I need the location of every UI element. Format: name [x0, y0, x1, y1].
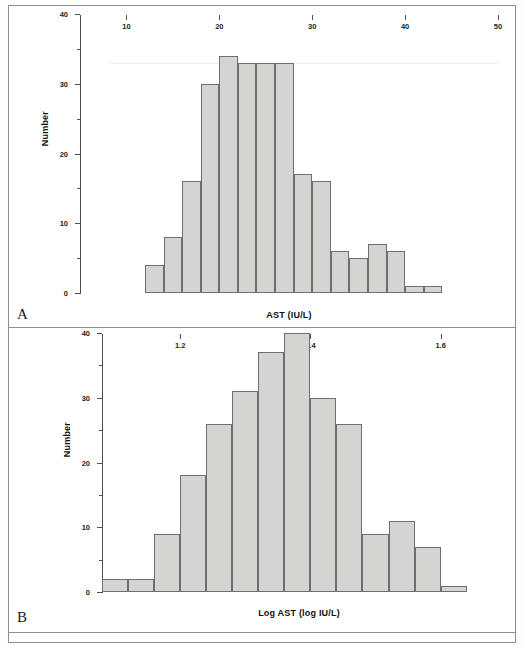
- histogram-bar: [102, 579, 128, 592]
- y-tick-20: 20: [97, 463, 102, 464]
- histogram-bar: [336, 424, 362, 592]
- y-tick-minor-25: [99, 430, 102, 431]
- y-tick-label-40: 40: [82, 329, 90, 338]
- panel-a: A AST (IU/L) Number 0102030401020304050: [9, 6, 515, 327]
- plot-area-a: AST (IU/L) Number 0102030401020304050: [80, 15, 498, 294]
- histogram-bar: [256, 63, 275, 293]
- x-tick-50: 50: [498, 15, 499, 20]
- histogram-bar: [182, 181, 201, 293]
- histogram-bar: [128, 579, 154, 592]
- histogram-bar: [206, 424, 232, 592]
- x-tick-30: 30: [312, 15, 313, 20]
- y-tick-10: 10: [97, 527, 102, 528]
- panel-divider-bottom: [9, 632, 515, 633]
- x-tick-label-50: 50: [494, 22, 502, 31]
- y-tick-label-10: 10: [60, 219, 68, 228]
- y-tick-40: 40: [97, 333, 102, 334]
- x-tick-label-20: 20: [215, 22, 223, 31]
- y-tick-40: 40: [75, 14, 80, 15]
- y-tick-label-0: 0: [86, 588, 90, 597]
- y-tick-label-40: 40: [60, 10, 68, 19]
- y-axis-line-a: [80, 15, 81, 294]
- y-tick-30: 30: [75, 84, 80, 85]
- x-tick-10: 10: [126, 15, 127, 20]
- plot-area-b: Log AST (log IU/L) Number 0102030401.21.…: [102, 334, 496, 593]
- histogram-bar: [180, 475, 206, 592]
- y-tick-minor-25: [77, 119, 80, 120]
- y-tick-label-0: 0: [64, 289, 68, 298]
- histogram-bar: [387, 251, 406, 293]
- x-tick-label-1.2: 1.2: [175, 341, 185, 350]
- y-tick-label-30: 30: [60, 79, 68, 88]
- y-tick-minor-5: [77, 258, 80, 259]
- y-tick-20: 20: [75, 154, 80, 155]
- histogram-bar: [275, 63, 294, 293]
- histogram-bar: [310, 398, 336, 592]
- histogram-bar: [219, 56, 238, 293]
- histogram-bar: [284, 333, 310, 592]
- x-tick-label-40: 40: [401, 22, 409, 31]
- histogram-bar: [154, 534, 180, 592]
- x-axis-title-b: Log AST (log IU/L): [102, 608, 496, 618]
- y-tick-0: 0: [97, 592, 102, 593]
- y-tick-label-30: 30: [82, 393, 90, 402]
- y-tick-minor-35: [99, 365, 102, 366]
- panel-b: B Log AST (log IU/L) Number 0102030401.2…: [9, 328, 515, 632]
- histogram-bar: [312, 181, 331, 293]
- x-tick-1.4: 1.4: [310, 334, 311, 339]
- y-tick-label-20: 20: [82, 458, 90, 467]
- histogram-bar: [362, 534, 388, 592]
- histogram-bar: [368, 244, 387, 293]
- y-axis-title-b: Number: [62, 422, 72, 457]
- panel-a-letter: A: [17, 306, 28, 323]
- y-tick-minor-35: [77, 49, 80, 50]
- histogram-bar: [145, 265, 164, 293]
- histogram-bar: [232, 391, 258, 592]
- histogram-bar: [294, 174, 313, 293]
- histogram-bar: [164, 237, 183, 293]
- y-tick-0: 0: [75, 293, 80, 294]
- histogram-bar: [415, 547, 441, 592]
- y-tick-label-20: 20: [60, 149, 68, 158]
- histogram-bar: [424, 286, 443, 293]
- x-tick-40: 40: [405, 15, 406, 20]
- histogram-bar: [405, 286, 424, 293]
- histogram-bar: [258, 352, 284, 592]
- y-tick-minor-15: [77, 188, 80, 189]
- x-tick-label-1.6: 1.6: [435, 341, 445, 350]
- histogram-bar: [349, 258, 368, 293]
- panel-b-letter: B: [17, 609, 27, 626]
- histogram-bar: [389, 521, 415, 592]
- y-axis-line-b: [102, 334, 103, 593]
- x-tick-label-10: 10: [122, 22, 130, 31]
- y-tick-label-10: 10: [82, 523, 90, 532]
- y-tick-minor-15: [99, 495, 102, 496]
- y-tick-minor-5: [99, 560, 102, 561]
- histogram-bar: [201, 84, 220, 293]
- y-tick-30: 30: [97, 398, 102, 399]
- histogram-bar: [331, 251, 350, 293]
- x-tick-1.2: 1.2: [180, 334, 181, 339]
- x-tick-1.6: 1.6: [441, 334, 442, 339]
- x-tick-label-30: 30: [308, 22, 316, 31]
- histogram-bar: [238, 63, 257, 293]
- y-axis-title-a: Number: [40, 111, 50, 146]
- histogram-bar: [441, 586, 467, 592]
- figure-root: A AST (IU/L) Number 0102030401020304050 …: [0, 0, 524, 649]
- y-tick-10: 10: [75, 223, 80, 224]
- x-tick-20: 20: [219, 15, 220, 20]
- x-axis-title-a: AST (IU/L): [80, 310, 498, 320]
- faint-guide-line: [110, 63, 498, 64]
